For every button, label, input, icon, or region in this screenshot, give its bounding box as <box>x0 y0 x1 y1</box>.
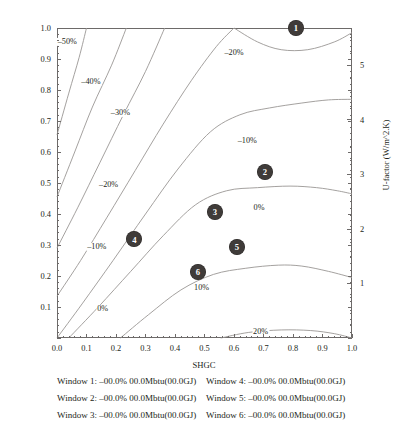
axis-tick <box>57 276 61 277</box>
y-axis-left-tick-label: 0.8 <box>20 86 51 95</box>
axis-tick <box>57 334 58 339</box>
axis-tick <box>57 301 59 302</box>
axis-tick <box>350 270 352 271</box>
axis-tick <box>57 127 59 128</box>
axis-tick <box>57 59 61 60</box>
axis-tick <box>269 336 270 338</box>
axis-tick <box>350 310 352 311</box>
axis-tick <box>350 189 352 190</box>
axis-tick <box>57 108 59 109</box>
legend-entry: Window 4: ‒00.0% 00.0Mbtu(00.0GJ) <box>206 376 405 386</box>
axis-tick <box>104 336 105 338</box>
window-legend: Window 1: ‒00.0% 00.0Mbtu(00.0GJ)Window … <box>0 372 405 423</box>
axis-tick <box>57 121 61 122</box>
axis-tick <box>240 336 241 338</box>
x-axis-tick-label: 0.6 <box>229 344 239 353</box>
axis-tick <box>299 336 300 338</box>
axis-tick <box>57 40 59 41</box>
axis-tick <box>293 334 294 339</box>
axis-tick <box>57 164 59 165</box>
axis-tick <box>350 78 352 79</box>
y-axis-left-tick-label: 0.2 <box>20 272 51 281</box>
x-axis-tick-label: 0.2 <box>111 344 121 353</box>
axis-tick <box>287 336 288 338</box>
axis-tick <box>350 232 352 233</box>
axis-tick <box>350 319 352 320</box>
contour-value-label: 0% <box>253 204 266 212</box>
legend-entry: Window 2: ‒00.0% 00.0Mbtu(00.0GJ) <box>0 393 206 403</box>
axis-tick <box>57 338 61 339</box>
contour-value-label: 20% <box>252 328 269 336</box>
axis-tick <box>350 164 352 165</box>
contour-value-label: ‒40% <box>80 78 101 86</box>
x-axis-tick-label: 0.8 <box>288 344 298 353</box>
axis-tick <box>350 201 352 202</box>
axis-tick <box>63 336 64 338</box>
axis-tick <box>57 115 59 116</box>
axis-tick <box>350 251 352 252</box>
y-axis-left-tick-label: 0.5 <box>20 179 51 188</box>
window-marker-5[interactable]: 5 <box>229 239 244 254</box>
axis-tick <box>350 324 352 325</box>
axis-tick <box>310 336 311 338</box>
axis-tick <box>57 189 59 190</box>
axis-tick <box>57 46 59 47</box>
axis-tick <box>350 115 352 116</box>
axis-tick <box>350 325 352 326</box>
axis-tick <box>350 102 352 103</box>
axis-tick <box>350 174 352 175</box>
axis-tick <box>57 294 59 295</box>
y-axis-right-tick-label: 4 <box>360 115 364 124</box>
contour-line <box>57 99 352 338</box>
axis-tick <box>350 65 352 66</box>
y-axis-left-tick-label: 0.1 <box>20 303 51 312</box>
axis-tick <box>57 270 59 271</box>
contour-value-label: ‒50% <box>57 38 78 46</box>
axis-tick <box>350 256 352 257</box>
axis-tick <box>175 334 176 339</box>
legend-row: Window 1: ‒00.0% 00.0Mbtu(00.0GJ)Window … <box>0 372 405 389</box>
axis-tick <box>275 336 276 338</box>
y-axis-left-tick-label: 0.3 <box>20 241 51 250</box>
y-axis-right-tick-label: 5 <box>360 61 364 70</box>
contour-value-label: ‒30% <box>110 109 131 117</box>
axis-tick <box>328 336 329 338</box>
axis-tick <box>350 96 352 97</box>
axis-tick <box>350 71 352 72</box>
contour-value-label: ‒10% <box>237 137 258 145</box>
axis-tick <box>57 257 59 258</box>
window-marker-2[interactable]: 2 <box>257 164 272 179</box>
axis-tick <box>57 183 61 184</box>
axis-tick <box>246 336 247 338</box>
window-marker-3[interactable]: 3 <box>207 204 222 219</box>
contour-value-label: ‒20% <box>223 49 244 57</box>
axis-tick <box>350 37 352 38</box>
axis-tick <box>57 177 59 178</box>
x-axis-tick-label: 0.1 <box>81 344 91 353</box>
axis-tick <box>57 263 59 264</box>
axis-tick <box>348 90 352 91</box>
plot-area: ‒50%‒40%‒30%‒20%‒20%‒10%‒10%0%0%10%20% 1… <box>57 28 352 338</box>
contour-value-label: ‒20% <box>98 180 119 188</box>
axis-tick <box>69 336 70 338</box>
axis-tick <box>80 336 81 338</box>
axis-tick <box>350 301 352 302</box>
axis-tick <box>350 84 352 85</box>
axis-tick <box>348 307 352 308</box>
axis-tick <box>350 158 352 159</box>
window-marker-1[interactable]: 1 <box>288 21 303 36</box>
axis-tick <box>352 334 353 339</box>
window-marker-6[interactable]: 6 <box>191 265 206 280</box>
axis-tick <box>74 336 75 338</box>
axis-tick <box>340 336 341 338</box>
legend-row: Window 2: ‒00.0% 00.0Mbtu(00.0GJ)Window … <box>0 389 405 406</box>
axis-tick <box>222 336 223 338</box>
axis-tick <box>350 40 352 41</box>
axis-tick <box>350 34 352 35</box>
window-marker-4[interactable]: 4 <box>127 232 142 247</box>
axis-tick <box>350 127 352 128</box>
axis-tick <box>169 336 170 338</box>
axis-tick <box>57 201 59 202</box>
axis-tick <box>350 239 352 240</box>
axis-tick <box>57 96 59 97</box>
